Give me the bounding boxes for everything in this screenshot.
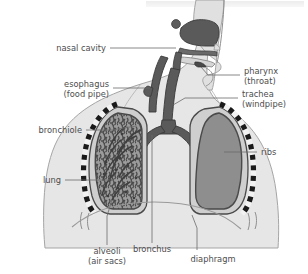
nasal-cavity-structure xyxy=(172,20,220,50)
respiratory-system-figure: nasal cavity esophagus (food pipe) bronc… xyxy=(0,0,308,274)
label-lung: lung xyxy=(43,175,61,185)
label-bronchus: bronchus xyxy=(133,244,171,254)
anatomy-diagram: nasal cavity esophagus (food pipe) bronc… xyxy=(0,0,308,274)
label-trachea-sub: (windpipe) xyxy=(242,99,286,109)
lung-left-textured xyxy=(95,113,142,209)
label-ribs: ribs xyxy=(261,147,276,157)
label-nasal-cavity: nasal cavity xyxy=(56,43,106,53)
label-alveoli-sub: (air sacs) xyxy=(88,256,126,266)
label-esophagus: esophagus xyxy=(64,79,109,89)
top-gray-band xyxy=(146,1,304,7)
lung-right-solid xyxy=(196,113,242,209)
label-bronchiole: bronchiole xyxy=(39,125,82,135)
label-esophagus-sub: (food pipe) xyxy=(64,89,109,99)
label-alveoli: alveoli xyxy=(93,246,120,256)
label-pharynx-sub: (throat) xyxy=(244,76,276,86)
label-diaphragm: diaphragm xyxy=(190,254,235,264)
label-pharynx: pharynx xyxy=(244,66,278,76)
label-trachea: trachea xyxy=(242,89,274,99)
